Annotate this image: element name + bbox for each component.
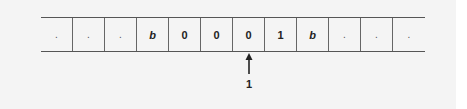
- tape-cell: 1: [265, 18, 297, 51]
- head-arrow-icon: [241, 53, 257, 75]
- tape-cell: .: [41, 18, 73, 51]
- tape: . . . b 0 0 0 1 b . . .: [41, 17, 425, 52]
- tape-cell: 0: [201, 18, 233, 51]
- tape-cell: .: [393, 18, 425, 51]
- tape-cell: .: [361, 18, 393, 51]
- tape-cell: .: [329, 18, 361, 51]
- tape-cell-blank: b: [297, 18, 329, 51]
- tape-cell: .: [105, 18, 137, 51]
- diagram-panel: . . . b 0 0 0 1 b . . . 1: [0, 0, 456, 109]
- head-state-label: 1: [241, 78, 257, 90]
- tape-cell: .: [73, 18, 105, 51]
- tape-cell-blank: b: [137, 18, 169, 51]
- tape-cell: 0: [169, 18, 201, 51]
- tape-cell-current: 0: [233, 18, 265, 51]
